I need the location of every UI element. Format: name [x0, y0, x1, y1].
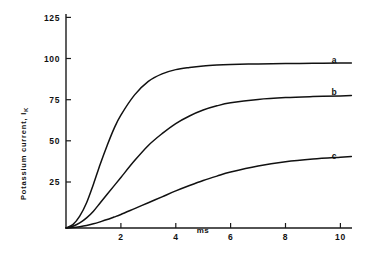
- y-axis-title: Potassium current, IK: [19, 107, 29, 200]
- y-axis-title-main: Potassium current, I: [19, 112, 28, 200]
- y-ticklabel-50: 50: [49, 136, 60, 146]
- curve-label-b: b: [331, 87, 336, 97]
- potassium-current-chart: 125 100 75 50 25 2 4 6 8 10 ms Potassium…: [0, 0, 369, 267]
- curve-label-a: a: [332, 55, 337, 65]
- svg-text:Potassium current, IK: Potassium current, IK: [19, 107, 29, 200]
- x-ticklabel-4: 4: [173, 232, 178, 242]
- curve-b: [66, 96, 351, 228]
- y-ticklabel-75: 75: [49, 95, 60, 105]
- curve-a: [66, 63, 351, 228]
- x-ticklabel-2: 2: [118, 232, 123, 242]
- y-axis-ticks: [66, 17, 71, 182]
- x-ticklabel-8: 8: [283, 232, 288, 242]
- x-axis-title: ms: [197, 226, 210, 235]
- y-ticklabel-125: 125: [44, 13, 60, 23]
- y-ticklabel-25: 25: [49, 177, 60, 187]
- y-axis-title-subscript: K: [23, 107, 29, 112]
- x-ticklabel-10: 10: [335, 232, 346, 242]
- curve-label-c: c: [332, 151, 337, 161]
- x-axis-ticks: [121, 223, 341, 228]
- x-ticklabel-6: 6: [228, 232, 233, 242]
- y-ticklabel-100: 100: [44, 54, 60, 64]
- curve-group: [66, 63, 351, 228]
